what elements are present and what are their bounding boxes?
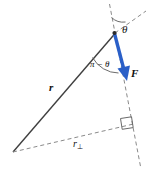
r-perp-subscript: ⊥: [77, 143, 83, 151]
right-angle-icon: [121, 117, 134, 130]
force-vector-shaft: [115, 34, 125, 71]
application-point-dot: [112, 31, 116, 35]
lever-arm-r-line: [13, 33, 116, 152]
force-vector-label: F: [131, 68, 138, 79]
torque-diagram: θ π − θ F r r⊥: [0, 0, 152, 170]
angle-theta-label: θ: [122, 24, 127, 35]
angle-pi-minus-theta-label: π − θ: [90, 60, 110, 69]
arrowhead-icon: [118, 66, 131, 82]
perpendicular-lever-arm-label: r⊥: [73, 139, 83, 151]
angle-arc-theta: [112, 18, 126, 23]
lever-arm-r-label: r: [49, 82, 53, 93]
